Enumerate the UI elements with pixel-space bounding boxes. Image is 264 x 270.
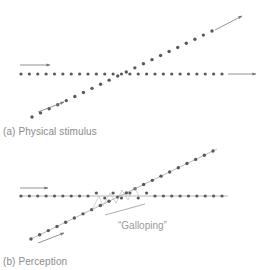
panel-a-physical-stimulus: [19, 16, 256, 119]
horizontal-dot: [220, 72, 223, 75]
diagonal-motion-arrow-icon-bottom: [38, 233, 64, 243]
horizontal-dot: [103, 196, 106, 199]
diagonal-dot: [125, 70, 128, 73]
diagonal-dot: [151, 179, 154, 182]
diagonal-dot: [73, 95, 76, 98]
diagonal-dot: [90, 87, 93, 90]
horizontal-dot: [137, 72, 140, 75]
horizontal-dot: [204, 72, 207, 75]
diagonal-dot: [30, 115, 33, 118]
horizontal-dot: [70, 72, 73, 75]
horizontal-dot: [212, 72, 215, 75]
horizontal-dot: [61, 72, 64, 75]
diagonal-dot: [133, 66, 136, 69]
horizontal-dot: [86, 72, 89, 75]
diagonal-dot: [185, 162, 188, 165]
diagonal-dot: [167, 50, 170, 53]
diagonal-dot: [65, 99, 68, 102]
diagonal-dot: [29, 237, 32, 240]
panel-b-caption: (b) Perception: [3, 256, 67, 267]
horizontal-dot: [120, 196, 123, 199]
diagonal-dot: [107, 78, 110, 81]
diagonal-dot: [194, 158, 197, 161]
horizontal-dot: [212, 194, 215, 197]
diagonal-dot: [64, 221, 67, 224]
panel-a-caption: (a) Physical stimulus: [3, 126, 97, 137]
horizontal-dot: [162, 194, 165, 197]
diagonal-dot: [193, 37, 196, 40]
diagonal-dot: [38, 233, 41, 236]
diagonal-dot: [150, 58, 153, 61]
diagonal-dot: [82, 91, 85, 94]
horizontal-dot: [137, 196, 140, 199]
diagonal-dot: [159, 174, 162, 177]
horizontal-dot: [145, 72, 148, 75]
horizontal-dot: [78, 72, 81, 75]
diagonal-motion-arrow-icon-top: [215, 16, 242, 30]
horizontal-dot: [170, 72, 173, 75]
horizontal-dot: [187, 72, 190, 75]
horizontal-dot: [53, 194, 56, 197]
horizontal-dot: [19, 72, 22, 75]
horizontal-dot: [170, 194, 173, 197]
horizontal-dot: [53, 72, 56, 75]
horizontal-dot: [220, 194, 223, 197]
diagonal-dot: [125, 191, 128, 194]
diagonal-dot: [159, 54, 162, 57]
horizontal-dot: [195, 194, 198, 197]
horizontal-dot: [128, 72, 131, 75]
diagonal-dot: [142, 183, 145, 186]
diagonal-dot: [81, 212, 84, 215]
diagonal-dot: [176, 46, 179, 49]
horizontal-dot: [86, 194, 89, 197]
galloping-pointer-line: [105, 204, 145, 215]
horizontal-dot: [28, 194, 31, 197]
diagonal-dot: [116, 74, 119, 77]
diagonal-motion-arrow-icon-bottom: [38, 102, 64, 112]
horizontal-dot: [112, 72, 115, 75]
diagonal-dot: [211, 149, 214, 152]
diagonal-dot: [73, 216, 76, 219]
horizontal-dot: [70, 194, 73, 197]
diagonal-dot: [203, 153, 206, 156]
horizontal-dot: [36, 72, 39, 75]
horizontal-dot: [36, 194, 39, 197]
horizontal-dot: [61, 194, 64, 197]
horizontal-dot: [103, 72, 106, 75]
horizontal-dot: [187, 194, 190, 197]
diagonal-dot: [99, 204, 102, 207]
horizontal-dot: [162, 72, 165, 75]
diagonal-dot: [210, 29, 213, 32]
horizontal-dot: [179, 194, 182, 197]
diagonal-dot: [177, 166, 180, 169]
horizontal-dot: [153, 72, 156, 75]
horizontal-dot: [28, 72, 31, 75]
horizontal-dot: [179, 72, 182, 75]
diagonal-dot: [142, 62, 145, 65]
horizontal-dot: [95, 191, 98, 194]
horizontal-dot: [45, 194, 48, 197]
horizontal-dot: [195, 72, 198, 75]
horizontal-dot: [153, 194, 156, 197]
horizontal-dot: [204, 194, 207, 197]
diagonal-dot: [47, 229, 50, 232]
diagonal-dot: [55, 225, 58, 228]
horizontal-dot: [145, 191, 148, 194]
galloping-label: “Galloping”: [118, 220, 167, 231]
horizontal-dot: [112, 191, 115, 194]
diagonal-dot: [168, 170, 171, 173]
horizontal-dot: [95, 72, 98, 75]
horizontal-dot: [45, 72, 48, 75]
diagonal-dot: [202, 33, 205, 36]
diagonal-dot: [107, 200, 110, 203]
diagonal-dot: [185, 42, 188, 45]
horizontal-dot: [19, 194, 22, 197]
diagonal-dot: [99, 83, 102, 86]
horizontal-dot: [120, 72, 123, 75]
gallop-path: [103, 193, 110, 206]
horizontal-dot: [78, 194, 81, 197]
